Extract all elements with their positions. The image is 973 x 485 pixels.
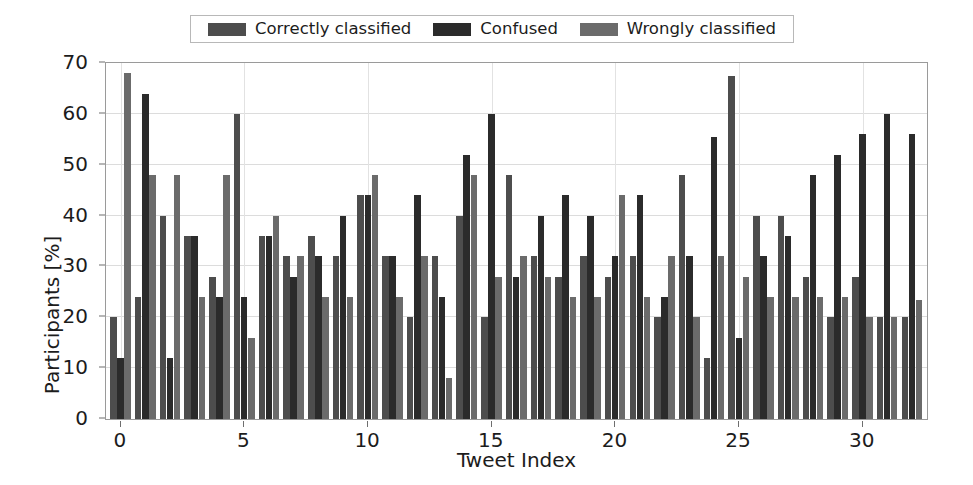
plot-area bbox=[105, 62, 928, 420]
bar bbox=[654, 317, 660, 419]
bar bbox=[884, 114, 890, 419]
bar bbox=[612, 256, 618, 419]
bar bbox=[446, 378, 452, 419]
bar bbox=[209, 277, 215, 419]
bar bbox=[471, 175, 477, 419]
bars-layer bbox=[106, 63, 927, 419]
y-axis-title: Participants [%] bbox=[40, 160, 64, 470]
bar bbox=[637, 195, 643, 419]
legend-entry-confused: Confused bbox=[433, 21, 558, 38]
x-tick-label: 0 bbox=[113, 430, 126, 450]
bar bbox=[580, 256, 586, 419]
bar bbox=[711, 137, 717, 419]
bar bbox=[234, 114, 240, 419]
x-tick-label: 30 bbox=[849, 430, 874, 450]
y-axis: Participants [%] 010203040506070 bbox=[0, 62, 98, 420]
x-tick-mark bbox=[491, 421, 492, 427]
y-tick-label: 10 bbox=[63, 357, 88, 377]
bar bbox=[778, 216, 784, 419]
chart-figure: Correctly classified Confused Wrongly cl… bbox=[0, 0, 973, 485]
x-tick-mark bbox=[738, 421, 739, 427]
bar bbox=[866, 317, 872, 419]
bar bbox=[594, 297, 600, 419]
bar bbox=[506, 175, 512, 419]
bar bbox=[333, 256, 339, 419]
bar bbox=[909, 134, 915, 419]
bar bbox=[538, 216, 544, 419]
bar bbox=[704, 358, 710, 419]
bar bbox=[842, 297, 848, 419]
bar bbox=[347, 297, 353, 419]
bar bbox=[753, 216, 759, 419]
bar bbox=[679, 175, 685, 419]
bar bbox=[587, 216, 593, 419]
bar bbox=[743, 277, 749, 419]
bar bbox=[241, 297, 247, 419]
bar bbox=[421, 256, 427, 419]
bar bbox=[785, 236, 791, 419]
x-tick-mark bbox=[367, 421, 368, 427]
bar bbox=[644, 297, 650, 419]
legend-swatch-confused bbox=[433, 23, 471, 36]
bar bbox=[273, 216, 279, 419]
bar bbox=[693, 317, 699, 419]
bar bbox=[728, 76, 734, 419]
bar bbox=[297, 256, 303, 419]
bar bbox=[223, 175, 229, 419]
bar bbox=[322, 297, 328, 419]
bar bbox=[110, 317, 116, 419]
x-tick-mark bbox=[120, 421, 121, 427]
bar bbox=[668, 256, 674, 419]
x-axis-title: Tweet Index bbox=[105, 448, 928, 472]
y-tick-label: 0 bbox=[75, 408, 88, 428]
bar bbox=[619, 195, 625, 419]
bar bbox=[520, 256, 526, 419]
bar bbox=[266, 236, 272, 419]
x-tick-mark bbox=[614, 421, 615, 427]
y-tick-label: 40 bbox=[63, 205, 88, 225]
bar bbox=[630, 256, 636, 419]
bar bbox=[308, 236, 314, 419]
x-tick-label: 25 bbox=[725, 430, 750, 450]
bar bbox=[142, 94, 148, 419]
bar bbox=[718, 256, 724, 419]
bar bbox=[135, 297, 141, 419]
bar bbox=[767, 297, 773, 419]
y-tick-label: 70 bbox=[63, 52, 88, 72]
bar bbox=[555, 277, 561, 419]
bar bbox=[124, 73, 130, 419]
bar bbox=[902, 317, 908, 419]
bar bbox=[531, 256, 537, 419]
bar bbox=[852, 277, 858, 419]
bar bbox=[545, 277, 551, 419]
legend-label-confused: Confused bbox=[480, 21, 558, 38]
bar bbox=[810, 175, 816, 419]
bar bbox=[605, 277, 611, 419]
bar bbox=[283, 256, 289, 419]
bar bbox=[495, 277, 501, 419]
bar bbox=[661, 297, 667, 419]
bar bbox=[432, 256, 438, 419]
bar bbox=[686, 256, 692, 419]
x-tick-label: 15 bbox=[478, 430, 503, 450]
bar bbox=[191, 236, 197, 419]
legend-swatch-wrongly-classified bbox=[580, 23, 618, 36]
y-tick-label: 20 bbox=[63, 306, 88, 326]
bar bbox=[117, 358, 123, 419]
bar bbox=[382, 256, 388, 419]
y-tick-label: 50 bbox=[63, 154, 88, 174]
bar bbox=[562, 195, 568, 419]
bar bbox=[570, 297, 576, 419]
bar bbox=[891, 317, 897, 419]
bar bbox=[184, 236, 190, 419]
x-tick-label: 5 bbox=[237, 430, 250, 450]
y-tick-label: 60 bbox=[63, 103, 88, 123]
bar bbox=[877, 317, 883, 419]
bar bbox=[513, 277, 519, 419]
bar bbox=[916, 300, 922, 420]
bar bbox=[760, 256, 766, 419]
bar bbox=[817, 297, 823, 419]
bar bbox=[248, 338, 254, 419]
bar bbox=[488, 114, 494, 419]
x-tick-label: 20 bbox=[602, 430, 627, 450]
